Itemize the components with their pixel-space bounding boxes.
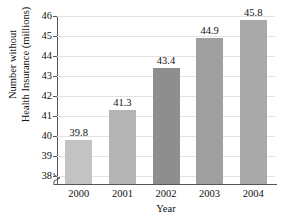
- y-axis-tick-label: 44: [42, 51, 53, 62]
- bar-value-label: 44.9: [200, 25, 218, 36]
- y-tick-label-wrap: 39: [57, 156, 58, 157]
- y-axis-tick-label: 41: [42, 111, 53, 122]
- bar: 44.9: [196, 38, 223, 184]
- y-axis-title: Number without Health Insurance (million…: [7, 0, 32, 135]
- bar-chart: Number of Americans without Health Insur…: [0, 0, 283, 222]
- x-axis-tick-label: 2000: [68, 188, 89, 199]
- y-tick-label-wrap: 40: [57, 136, 58, 137]
- y-axis-tick-label: 38: [42, 171, 53, 182]
- y-axis-tick-label: 40: [42, 131, 53, 142]
- y-tick-label-wrap: 43: [57, 76, 58, 77]
- y-axis-title-line2: Health Insurance (millions): [19, 0, 32, 135]
- x-axis-tick-label: 2003: [199, 188, 220, 199]
- x-axis-title: Year: [57, 203, 275, 214]
- y-axis-tick-label: 43: [42, 71, 53, 82]
- chart-title: Number of Americans without Health Insur…: [0, 0, 283, 1]
- x-axis-tick-label: 2004: [243, 188, 264, 199]
- x-axis-tick-label: 2002: [156, 188, 177, 199]
- bar-value-label: 45.8: [244, 7, 262, 18]
- bar: 43.4: [153, 68, 180, 184]
- y-axis-title-line1: Number without: [7, 0, 20, 135]
- x-axis-tick-label: 2001: [112, 188, 133, 199]
- y-axis-line: [57, 16, 58, 184]
- y-tick-label-wrap: 45: [57, 36, 58, 37]
- y-axis-tick-label: 45: [42, 31, 53, 42]
- y-axis-tick-label: 46: [42, 11, 53, 22]
- bar-value-label: 41.3: [113, 97, 131, 108]
- gridline: [57, 16, 275, 17]
- bar: 45.8: [240, 20, 267, 184]
- y-tick-label-wrap: 41: [57, 116, 58, 117]
- y-axis-tick-label: 42: [42, 91, 53, 102]
- y-tick-label-wrap: 46: [57, 16, 58, 17]
- bar: 41.3: [109, 110, 136, 184]
- x-axis-line: [54, 184, 277, 185]
- bar-value-label: 43.4: [157, 55, 175, 66]
- bar-value-label: 39.8: [70, 127, 88, 138]
- plot-area: 38394041424344454639.8200041.3200143.420…: [57, 16, 275, 184]
- y-tick-label-wrap: 44: [57, 56, 58, 57]
- y-tick-label-wrap: 42: [57, 96, 58, 97]
- axis-break-icon: [53, 173, 62, 185]
- y-tick-label-wrap: 38: [57, 176, 58, 177]
- y-axis-tick-label: 39: [42, 151, 53, 162]
- bar: 39.8: [65, 140, 92, 184]
